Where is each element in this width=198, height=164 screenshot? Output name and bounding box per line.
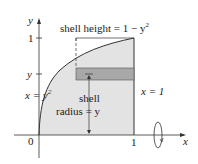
x-axis-label: x [182,135,188,147]
shell-height-label: shell height = 1 − y2 [60,21,149,34]
shell-radius-label-1: shell [79,92,100,104]
x-tick-1-label: 1 [131,136,137,148]
y-tick-1-label: 1 [28,32,34,44]
y-axis-label: y [27,14,33,26]
shell-rectangle [76,68,134,80]
shell-radius-label-2: radius = y [56,105,101,117]
y-tick-y-label: y [26,68,32,80]
origin-label: 0 [28,135,34,147]
curve-label: x = y2 [24,88,52,101]
shell-method-diagram: y x 0 1 1 y x = y2 x = 1 shell height = … [0,0,198,164]
line-x1-label: x = 1 [140,85,164,97]
